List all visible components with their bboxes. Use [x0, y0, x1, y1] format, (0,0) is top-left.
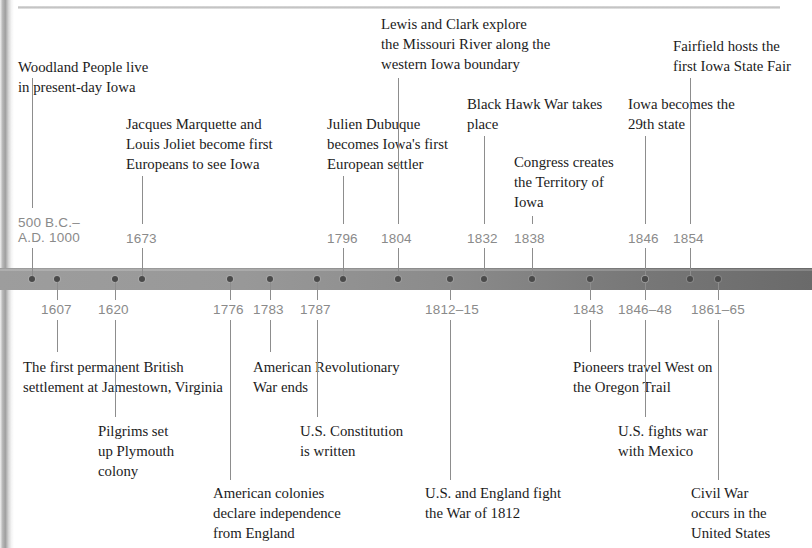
timeline-leader-line — [270, 320, 271, 352]
timeline-date-label: 1832 — [467, 231, 498, 246]
timeline-leader-line — [645, 136, 646, 224]
timeline-leader-line — [32, 78, 33, 208]
timeline-event-description: Julien Dubuque becomes Iowa's first Euro… — [327, 114, 448, 174]
timeline-tick-line — [115, 282, 116, 300]
timeline-event-description: The first permanent British settlement a… — [23, 357, 223, 397]
top-rule-divider — [18, 6, 780, 9]
timeline-event-description: Lewis and Clark explore the Missouri Riv… — [381, 14, 550, 74]
timeline-event-dot[interactable] — [481, 276, 487, 282]
timeline-tick-line — [317, 282, 318, 300]
timeline-event-dot[interactable] — [139, 276, 145, 282]
timeline-event-description: U.S. and England fight the War of 1812 — [425, 483, 561, 523]
timeline-event-description: Iowa becomes the 29th state — [628, 94, 735, 134]
timeline-tick-line — [718, 282, 719, 300]
timeline-tick-line — [645, 282, 646, 300]
timeline-tick-line — [270, 282, 271, 300]
timeline-date-label: 1620 — [98, 302, 129, 317]
timeline-event-description: U.S. fights war with Mexico — [618, 421, 708, 461]
timeline-event-dot[interactable] — [529, 276, 535, 282]
timeline-date-label: 1787 — [300, 302, 331, 317]
timeline-leader-line — [142, 176, 143, 224]
timeline-leader-line — [645, 320, 646, 417]
timeline-event-description: Jacques Marquette and Louis Joliet becom… — [126, 114, 273, 174]
timeline-tick-line — [590, 282, 591, 300]
timeline-event-description: Pioneers travel West on the Oregon Trail — [573, 357, 713, 397]
timeline-tick-line — [690, 248, 691, 276]
timeline-date-label: 1796 — [327, 231, 358, 246]
timeline-event-description: American Revolutionary War ends — [253, 357, 400, 397]
timeline-tick-line — [230, 282, 231, 300]
timeline-leader-line — [398, 78, 399, 224]
timeline-date-label: 1812–15 — [425, 302, 479, 317]
timeline-date-label: 1673 — [126, 231, 157, 246]
timeline-event-dot[interactable] — [29, 276, 35, 282]
timeline-event-description: U.S. Constitution is written — [300, 421, 403, 461]
timeline-leader-line — [343, 176, 344, 224]
timeline-event-description: American colonies declare independence f… — [213, 483, 341, 543]
timeline-leader-line — [57, 320, 58, 352]
timeline-tick-line — [32, 248, 33, 276]
timeline-event-description: Woodland People live in present-day Iowa — [18, 57, 148, 97]
timeline-date-label: 1846 — [628, 231, 659, 246]
timeline-event-description: Fairfield hosts the first Iowa State Fai… — [673, 36, 791, 76]
timeline-tick-line — [484, 248, 485, 276]
timeline-event-description: Congress creates the Territory of Iowa — [514, 152, 614, 212]
timeline-date-label: 1838 — [514, 231, 545, 246]
timeline-tick-line — [645, 248, 646, 276]
timeline-tick-line — [398, 248, 399, 276]
timeline-event-dot[interactable] — [340, 276, 346, 282]
timeline-tick-line — [57, 282, 58, 300]
timeline-event-dot[interactable] — [395, 276, 401, 282]
timeline-event-description: Black Hawk War takes place — [467, 94, 602, 134]
timeline-tick-line — [142, 248, 143, 276]
timeline-leader-line — [230, 320, 231, 480]
timeline-event-dot[interactable] — [687, 276, 693, 282]
timeline-date-label: 1804 — [381, 231, 412, 246]
timeline-date-label: 1861–65 — [691, 302, 745, 317]
timeline-leader-line — [690, 78, 691, 224]
timeline-page: 500 B.C.– A.D. 1000Woodland People live … — [0, 0, 812, 548]
timeline-event-description: Civil War occurs in the United States — [691, 483, 770, 543]
timeline-date-label: 1854 — [673, 231, 704, 246]
timeline-date-label: 1607 — [41, 302, 72, 317]
timeline-tick-line — [532, 248, 533, 276]
timeline-tick-line — [343, 248, 344, 276]
timeline-date-label: 1843 — [573, 302, 604, 317]
timeline-leader-line — [718, 320, 719, 480]
timeline-date-label: 500 B.C.– A.D. 1000 — [18, 215, 80, 245]
timeline-tick-line — [450, 282, 451, 300]
timeline-date-label: 1846–48 — [618, 302, 672, 317]
timeline-date-label: 1783 — [253, 302, 284, 317]
timeline-event-description: Pilgrims set up Plymouth colony — [98, 421, 174, 481]
timeline-leader-line — [590, 320, 591, 352]
timeline-date-label: 1776 — [213, 302, 244, 317]
timeline-leader-line — [450, 320, 451, 480]
timeline-leader-line — [484, 136, 485, 224]
timeline-leader-line — [532, 216, 533, 224]
timeline-leader-line — [115, 320, 116, 417]
timeline-leader-line — [317, 320, 318, 417]
